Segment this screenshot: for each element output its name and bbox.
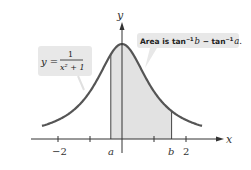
x-axis-label: x (226, 133, 233, 146)
figure: x y −2 2 a b y = 1 x² + 1 Area is tan−1b… (0, 0, 251, 170)
tick-label-2: 2 (183, 146, 189, 157)
area-text-prefix: Area is tan (140, 37, 186, 46)
equation-callout-pointer (78, 76, 84, 90)
shaded-area (111, 44, 172, 139)
equation-denominator: x² + 1 (60, 63, 85, 72)
y-axis-label: y (116, 9, 124, 22)
label-b: b (168, 146, 174, 157)
tick-label-neg2: −2 (52, 146, 67, 157)
inverse-superscript-2: −1 (226, 36, 234, 42)
area-callout-pointer (145, 48, 157, 68)
equation-lhs: y = (40, 56, 58, 67)
area-text-minus-tan: − tan (200, 37, 226, 46)
label-a: a (108, 146, 114, 157)
inverse-superscript-1: −1 (186, 36, 194, 42)
plot-canvas: x y −2 2 a b y = 1 x² + 1 Area is tan−1b… (0, 0, 251, 170)
x-axis-arrow-icon (216, 137, 224, 142)
y-axis-arrow-icon (120, 22, 125, 30)
equation-numerator: 1 (68, 50, 73, 59)
area-text-period: . (239, 36, 242, 46)
